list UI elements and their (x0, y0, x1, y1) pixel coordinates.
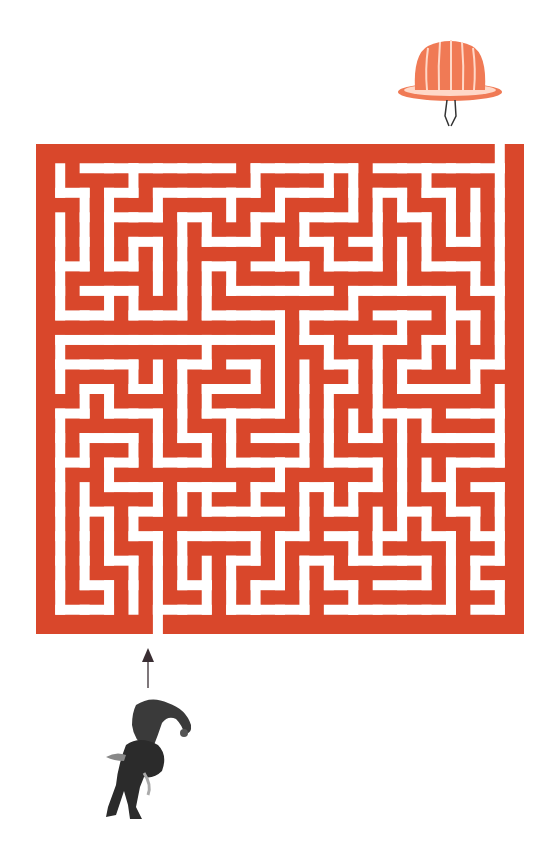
maze-grid[interactable] (36, 144, 524, 634)
jelly-mold-goal-icon (393, 34, 508, 129)
elephant-headed-figure-start-icon (96, 695, 196, 825)
arrow-up-icon (140, 648, 156, 688)
